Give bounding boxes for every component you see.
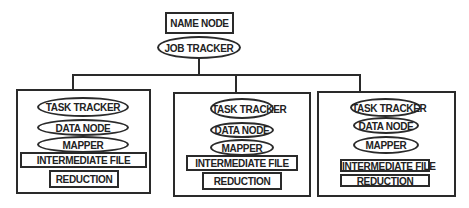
task-tracker-ellipse-2: TASK TRACKER: [210, 98, 274, 119]
data-node-ellipse-2: DATA NODE: [210, 122, 274, 138]
reduction-box-2: REDUCTION: [202, 172, 282, 190]
intermediate-file-label: INTERMEDIATE FILE: [188, 158, 296, 169]
intermediate-file-box-1: INTERMEDIATE FILE: [20, 152, 147, 168]
intermediate-file-box-2: INTERMEDIATE FILE: [186, 155, 298, 171]
task-tracker-ellipse-1: TASK TRACKER: [37, 97, 129, 117]
connector-drop-left: [72, 74, 74, 90]
mapper-label: MAPPER: [39, 139, 127, 150]
intermediate-file-box-3: INTERMEDIATE FILE: [340, 159, 430, 172]
mapper-ellipse-2: MAPPER: [210, 139, 274, 156]
mapper-ellipse-1: MAPPER: [37, 136, 129, 153]
reduction-label: REDUCTION: [342, 175, 428, 186]
reduction-box-3: REDUCTION: [340, 174, 430, 187]
data-node-label: DATA NODE: [212, 125, 272, 136]
mapper-label: MAPPER: [355, 140, 417, 151]
intermediate-file-label: INTERMEDIATE FILE: [22, 155, 145, 166]
connector-horizontal-bus: [72, 74, 361, 76]
job-tracker-ellipse: JOB TRACKER: [157, 36, 241, 59]
connector-drop-right: [359, 74, 361, 92]
intermediate-file-label: INTERMEDIATE FILE: [342, 160, 428, 171]
reduction-box-1: REDUCTION: [49, 170, 119, 188]
name-node-label: NAME NODE: [167, 18, 232, 29]
task-tracker-label: TASK TRACKER: [352, 102, 419, 113]
name-node-box: NAME NODE: [165, 12, 234, 34]
task-tracker-ellipse-3: TASK TRACKER: [350, 98, 421, 117]
mapper-label: MAPPER: [212, 142, 272, 153]
reduction-label: REDUCTION: [51, 174, 117, 185]
data-node-ellipse-1: DATA NODE: [37, 119, 129, 136]
data-node-ellipse-3: DATA NODE: [353, 117, 419, 134]
hadoop-architecture-diagram: NAME NODE JOB TRACKER TASK TRACKER DATA …: [0, 0, 469, 208]
task-tracker-label: TASK TRACKER: [39, 102, 127, 113]
data-node-label: DATA NODE: [355, 120, 417, 131]
job-tracker-label: JOB TRACKER: [159, 42, 239, 53]
connector-drop-middle: [235, 74, 237, 93]
task-tracker-label: TASK TRACKER: [212, 103, 272, 114]
reduction-label: REDUCTION: [204, 176, 280, 187]
mapper-ellipse-3: MAPPER: [353, 136, 419, 154]
data-node-label: DATA NODE: [39, 122, 127, 133]
